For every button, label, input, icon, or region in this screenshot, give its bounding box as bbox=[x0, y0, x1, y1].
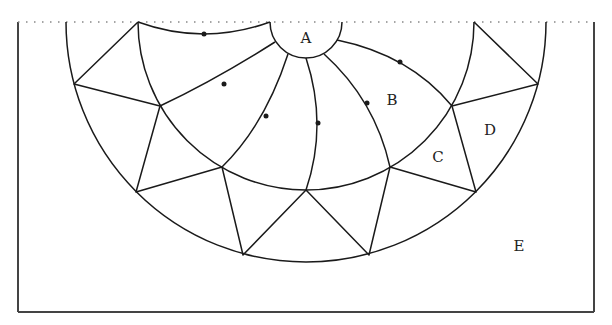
label-b: B bbox=[386, 91, 397, 109]
label-a: A bbox=[300, 29, 312, 47]
frame bbox=[18, 22, 594, 312]
label-e: E bbox=[514, 237, 525, 255]
spiral-dot bbox=[264, 114, 269, 119]
label-c: C bbox=[432, 148, 443, 166]
zigzag-band bbox=[74, 22, 538, 255]
spiral-dot bbox=[222, 82, 227, 87]
spiral-curve-5 bbox=[324, 54, 390, 167]
spiral-dot bbox=[365, 101, 370, 106]
spiral-curve-4 bbox=[306, 58, 317, 190]
label-d: D bbox=[484, 121, 496, 139]
spiral-dot bbox=[202, 32, 207, 37]
spiral-curve-3 bbox=[222, 54, 288, 167]
spiral-tessellation-diagram: A B C D E bbox=[0, 0, 612, 325]
spiral-curve-2 bbox=[160, 42, 275, 106]
middle-arc bbox=[138, 22, 474, 190]
spiral-dot bbox=[316, 121, 321, 126]
spiral-dot bbox=[398, 60, 403, 65]
